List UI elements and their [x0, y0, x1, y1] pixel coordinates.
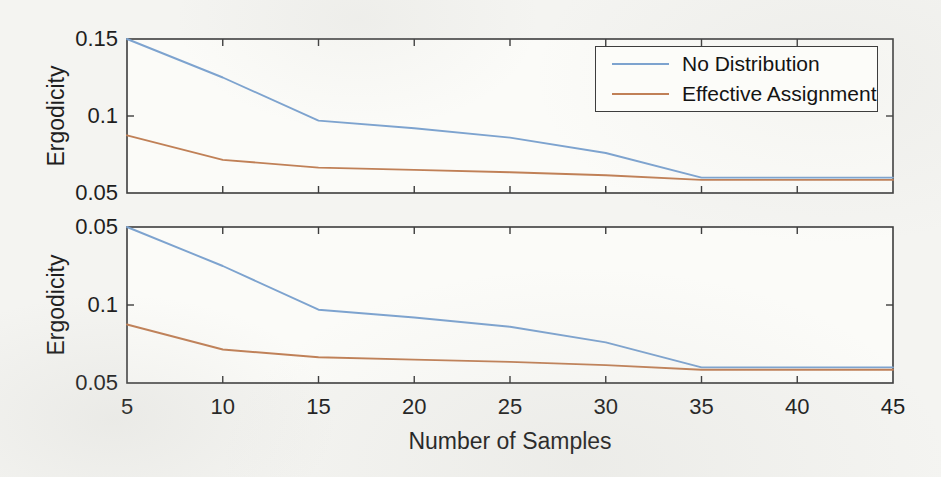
legend-label-no-distribution: No Distribution [682, 52, 820, 76]
x-tick-label: 30 [571, 394, 641, 420]
legend-entry-no-distribution: No Distribution [596, 51, 877, 77]
y-tick-label-bottom: 0.1 [30, 292, 118, 318]
x-tick-label: 5 [92, 394, 162, 420]
x-tick-label: 25 [475, 394, 545, 420]
x-axis-label: Number of Samples [360, 428, 660, 455]
x-tick-label: 45 [858, 394, 928, 420]
figure: Ergodicity Ergodicity Number of Samples … [0, 0, 941, 477]
y-tick-label-bottom: 0.05 [30, 214, 118, 240]
axes-frame-bottom [127, 227, 893, 383]
y-tick-label-top: 0.1 [30, 103, 118, 129]
no-distribution-line-sample [612, 63, 669, 65]
x-tick-label: 10 [188, 394, 258, 420]
x-tick-label: 15 [284, 394, 354, 420]
y-tick-label-top: 0.15 [30, 26, 118, 52]
legend-entry-effective-assignment: Effective Assignment [596, 81, 877, 107]
x-tick-label: 20 [379, 394, 449, 420]
x-tick-label: 35 [667, 394, 737, 420]
legend: No Distribution Effective Assignment [595, 46, 878, 112]
effective-assignment-line-sample [612, 93, 669, 95]
legend-label-effective-assignment: Effective Assignment [682, 82, 877, 106]
x-tick-label: 40 [762, 394, 832, 420]
y-tick-label-bottom: 0.05 [30, 370, 118, 396]
y-tick-label-top: 0.05 [30, 180, 118, 206]
